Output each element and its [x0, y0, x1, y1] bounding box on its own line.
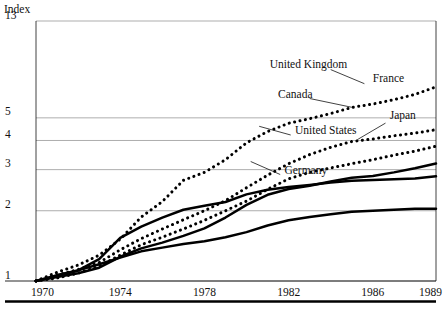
x-tick-label-1982: 1982 — [277, 286, 300, 298]
series-label-japan: Japan — [390, 109, 416, 122]
series-label-france: France — [373, 72, 404, 84]
chart-container: 1234513 197019741978198219861989 United … — [0, 0, 443, 311]
series-label-canada: Canada — [278, 88, 312, 100]
x-tick-label-1989: 1989 — [419, 286, 442, 298]
data-series-group — [36, 87, 436, 281]
y-axis-tick-labels: 1234513 — [5, 9, 17, 281]
series-line-united-kingdom — [36, 87, 436, 281]
y-tick-label-2: 2 — [5, 198, 11, 210]
leader-line-japan — [358, 123, 385, 139]
x-axis-tick-labels: 197019741978198219861989 — [31, 286, 442, 298]
x-tick-label-1986: 1986 — [361, 286, 384, 298]
x-tick-label-1970: 1970 — [31, 286, 54, 298]
x-tick-label-1978: 1978 — [193, 286, 216, 298]
y-axis-title: Index — [4, 3, 30, 15]
series-label-united-kingdom: United Kingdom — [270, 58, 348, 71]
x-tick-label-1974: 1974 — [109, 286, 132, 298]
line-chart: 1234513 197019741978198219861989 United … — [0, 0, 443, 311]
leader-line-germany — [251, 162, 281, 175]
y-tick-label-1: 1 — [5, 269, 11, 281]
series-inline-labels: United KingdomFranceCanadaJapanUnited St… — [251, 58, 416, 177]
y-tick-label-4: 4 — [5, 128, 11, 140]
y-tick-label-5: 5 — [5, 105, 11, 117]
series-label-germany: Germany — [284, 164, 327, 177]
leader-line-canada — [310, 99, 352, 108]
leader-line-france — [331, 70, 365, 84]
series-line-germany — [36, 209, 436, 281]
y-tick-label-3: 3 — [5, 157, 11, 169]
chart-frame — [5, 21, 436, 302]
series-label-united-states: United States — [295, 124, 357, 136]
